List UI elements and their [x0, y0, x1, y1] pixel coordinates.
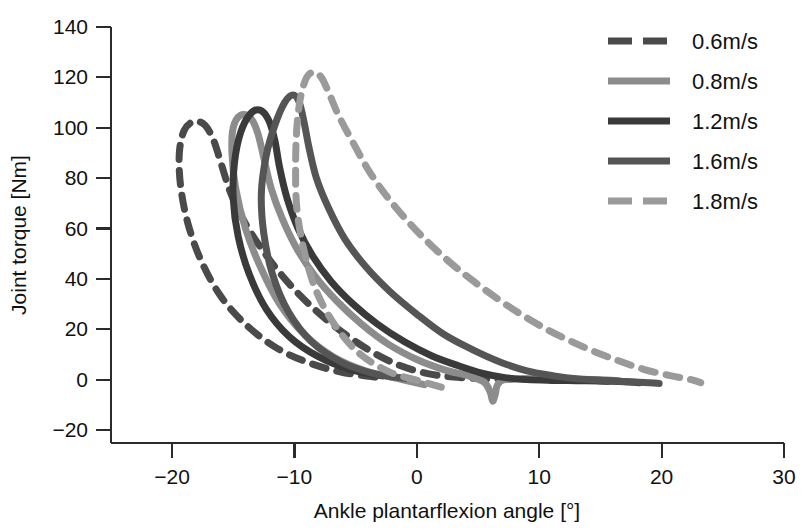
legend-item-0.8m-s[interactable]: 0.8m/s	[608, 69, 758, 94]
x-tick-label: 30	[772, 465, 795, 488]
data-curve-1.6m-s	[261, 95, 659, 383]
x-tick-label: −10	[277, 465, 313, 488]
axis-frame	[111, 27, 784, 443]
y-tick-label: 20	[65, 317, 88, 340]
legend-label: 0.6m/s	[692, 29, 758, 54]
y-axis-ticks	[96, 27, 111, 430]
y-tick-label: 0	[76, 368, 88, 391]
legend-label: 0.8m/s	[692, 69, 758, 94]
y-tick-label: 80	[65, 166, 88, 189]
y-tick-label: 60	[65, 217, 88, 240]
legend-label: 1.8m/s	[692, 189, 758, 214]
y-tick-label: 100	[53, 116, 88, 139]
legend-item-1.8m-s[interactable]: 1.8m/s	[608, 189, 758, 214]
x-axis-tick-labels: −20−100102030	[154, 465, 795, 488]
x-tick-label: 0	[411, 465, 423, 488]
chart-figure: −20020406080100120140 −20−100102030 Ankl…	[0, 0, 809, 532]
x-axis-title: Ankle plantarflexion angle [°]	[314, 499, 580, 522]
y-tick-label: −20	[52, 418, 88, 441]
x-tick-label: 20	[650, 465, 673, 488]
legend-item-1.6m-s[interactable]: 1.6m/s	[608, 149, 758, 174]
legend-item-0.6m-s[interactable]: 0.6m/s	[608, 29, 758, 54]
chart-legend: 0.6m/s0.8m/s1.2m/s1.6m/s1.8m/s	[608, 29, 758, 214]
legend-label: 1.6m/s	[692, 149, 758, 174]
x-tick-label: −20	[154, 465, 190, 488]
legend-item-1.2m-s[interactable]: 1.2m/s	[608, 109, 758, 134]
x-axis-ticks	[172, 443, 784, 458]
y-axis-title: Joint torque [Nm]	[7, 155, 30, 315]
legend-label: 1.2m/s	[692, 109, 758, 134]
hysteresis-loop-chart: −20020406080100120140 −20−100102030 Ankl…	[0, 0, 809, 532]
y-tick-label: 140	[53, 15, 88, 38]
x-tick-label: 10	[528, 465, 551, 488]
y-axis-tick-labels: −20020406080100120140	[52, 15, 88, 441]
y-tick-label: 40	[65, 267, 88, 290]
y-tick-label: 120	[53, 65, 88, 88]
